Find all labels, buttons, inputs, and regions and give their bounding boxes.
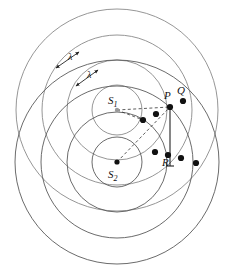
point-label-group: S1S2PQR	[108, 84, 185, 183]
wavelength-label-1: λ	[67, 51, 73, 62]
label-s2-subscript: 2	[114, 174, 118, 183]
path-line-S2-to-P	[117, 107, 170, 162]
label-point-p: P	[163, 89, 171, 101]
intersection-dot-7	[178, 155, 184, 161]
source-marker-s2	[114, 159, 119, 164]
label-s1: S1	[108, 94, 118, 109]
intersection-dot-1	[167, 104, 173, 110]
diagram-canvas: λλ S1S2PQR	[0, 0, 230, 275]
intersection-dot-8	[193, 160, 199, 166]
source-marker-group	[114, 108, 119, 165]
intersection-dot-4	[140, 117, 146, 123]
label-s1-subscript: 1	[114, 100, 118, 109]
interference-diagram: λλ S1S2PQR	[0, 0, 230, 275]
path-line-S1-to-lower-left	[117, 110, 143, 120]
intersection-dot-3	[153, 111, 159, 117]
wavelength-label-2: λ	[86, 69, 92, 80]
path-line-group	[117, 107, 170, 162]
path-line-S1-to-P	[117, 107, 170, 110]
label-point-q: Q	[177, 84, 185, 96]
intersection-dot-2	[180, 98, 186, 104]
intersection-dot-5	[152, 149, 158, 155]
label-point-r: R	[161, 156, 169, 168]
label-s2: S2	[108, 168, 118, 183]
